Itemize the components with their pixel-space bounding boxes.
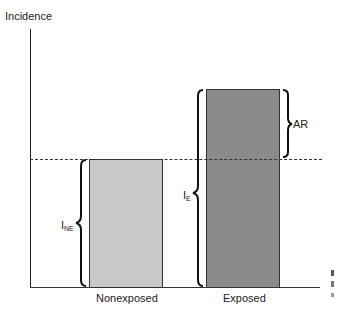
edge-mark bbox=[331, 293, 334, 297]
edge-mark bbox=[331, 281, 334, 287]
category-label-nonexposed: Nonexposed bbox=[96, 292, 158, 304]
brace-annotations bbox=[0, 0, 337, 314]
label-ar: AR bbox=[293, 118, 308, 130]
edge-mark bbox=[331, 270, 334, 276]
label-ie: IE bbox=[183, 189, 191, 202]
label-ine: INE bbox=[61, 219, 74, 232]
brace-ar-icon bbox=[283, 90, 292, 157]
category-label-exposed: Exposed bbox=[223, 292, 266, 304]
brace-ie-icon bbox=[193, 90, 203, 286]
brace-ine-icon bbox=[76, 160, 86, 286]
